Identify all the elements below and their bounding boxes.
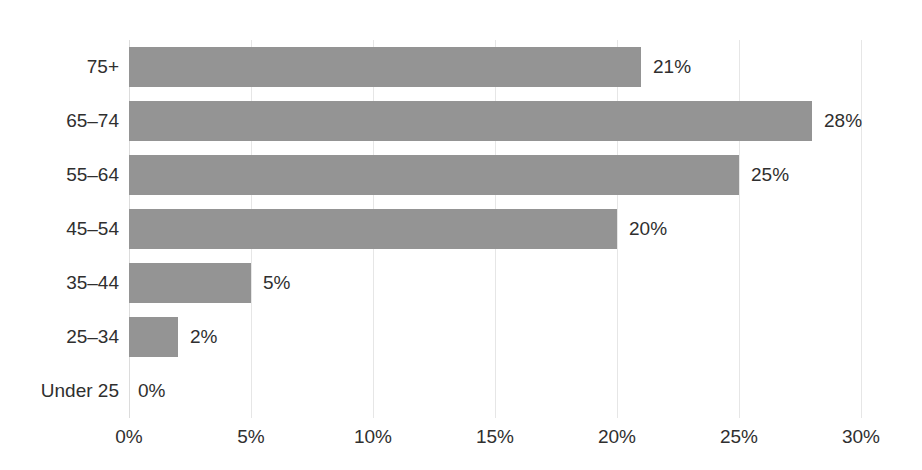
x-axis-tick: 20% <box>598 426 636 448</box>
bar-row: 21% <box>129 40 861 94</box>
y-axis-label: 45–54 <box>4 202 119 256</box>
x-axis-tick: 5% <box>237 426 264 448</box>
bar-value-label: 28% <box>824 101 862 141</box>
plot-area: 21% 28% 25% 20% 5% 2% 0% <box>129 40 861 418</box>
y-axis-label: 75+ <box>4 40 119 94</box>
bar-row: 0% <box>129 364 861 418</box>
gridline-30 <box>861 40 862 418</box>
bar <box>129 155 739 195</box>
bar <box>129 263 251 303</box>
bar-chart: 75+ 65–74 55–64 45–54 35–44 25–34 Under … <box>0 0 922 470</box>
bar-value-label: 5% <box>263 263 290 303</box>
x-axis-tick: 0% <box>115 426 142 448</box>
x-axis-labels: 0% 5% 10% 15% 20% 25% 30% <box>129 420 861 460</box>
x-axis-tick: 10% <box>354 426 392 448</box>
y-axis-labels: 75+ 65–74 55–64 45–54 35–44 25–34 Under … <box>0 40 119 418</box>
bar-value-label: 20% <box>629 209 667 249</box>
bar-value-label: 0% <box>138 371 165 411</box>
y-axis-label: 25–34 <box>4 310 119 364</box>
bar-value-label: 2% <box>190 317 217 357</box>
bar <box>129 47 641 87</box>
bar-value-label: 25% <box>751 155 789 195</box>
x-axis-tick: 30% <box>842 426 880 448</box>
y-axis-label: 65–74 <box>4 94 119 148</box>
y-axis-label: 35–44 <box>4 256 119 310</box>
bar-row: 2% <box>129 310 861 364</box>
bar-value-label: 21% <box>653 47 691 87</box>
bar-row: 5% <box>129 256 861 310</box>
x-axis-tick: 25% <box>720 426 758 448</box>
x-axis-tick: 15% <box>476 426 514 448</box>
bar <box>129 209 617 249</box>
y-axis-label: 55–64 <box>4 148 119 202</box>
bar <box>129 101 812 141</box>
y-axis-label: Under 25 <box>4 364 119 418</box>
bar-row: 28% <box>129 94 861 148</box>
bar <box>129 317 178 357</box>
bar-row: 25% <box>129 148 861 202</box>
bar-row: 20% <box>129 202 861 256</box>
